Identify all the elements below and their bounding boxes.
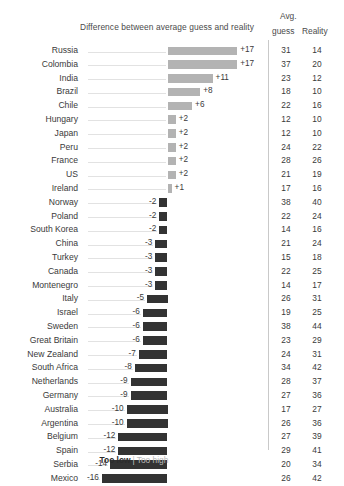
chart-row: Turkey-31518: [0, 251, 344, 265]
chart-row: Chile+62216: [0, 99, 344, 113]
chart-row: Netherlands-92837: [0, 375, 344, 389]
row-diff-label: -12: [0, 445, 115, 454]
row-diff-label: -9: [0, 390, 128, 399]
row-reality-value: 42: [306, 473, 328, 483]
row-diff-bar: [159, 212, 167, 221]
row-avg-guess-value: 29: [276, 445, 296, 455]
row-country-label: Chile: [58, 100, 78, 110]
row-diff-bar: [168, 47, 238, 56]
row-diff-bar: [127, 419, 168, 428]
row-diff-bar: [168, 74, 213, 83]
row-diff-bar: [168, 129, 176, 138]
row-avg-guess-value: 28: [276, 376, 296, 386]
row-diff-bar: [143, 309, 168, 318]
row-diff-label: +17: [240, 45, 254, 54]
row-diff-label: -3: [0, 266, 152, 275]
row-reality-value: 42: [306, 362, 328, 372]
row-diff-bar: [102, 474, 168, 483]
chart-row: Israel-61925: [0, 306, 344, 320]
row-avg-guess-value: 22: [276, 211, 296, 221]
chart-row: Russia+173114: [0, 44, 344, 58]
row-avg-guess-value: 38: [276, 321, 296, 331]
row-diff-bar: [168, 102, 193, 111]
legend-too-low: Too low: [100, 455, 131, 465]
row-diff-label: -12: [0, 431, 115, 440]
column-header-reality: Reality: [302, 26, 328, 36]
row-diff-bar: [143, 322, 168, 331]
row-avg-guess-value: 20: [276, 459, 296, 469]
row-leader-line: [88, 52, 166, 53]
row-country-label: Ireland: [52, 183, 78, 193]
row-reality-value: 10: [306, 128, 328, 138]
row-diff-label: -6: [0, 335, 140, 344]
row-avg-guess-value: 26: [276, 293, 296, 303]
row-country-label: Hungary: [46, 114, 78, 124]
row-leader-line: [88, 65, 166, 66]
chart-row: Hungary+21210: [0, 113, 344, 127]
row-avg-guess-value: 21: [276, 169, 296, 179]
row-country-label: Brazil: [57, 86, 79, 96]
row-reality-value: 16: [306, 224, 328, 234]
chart-row: South Korea-21416: [0, 223, 344, 237]
chart-row: US+22119: [0, 168, 344, 182]
chart-row: Peru+22422: [0, 141, 344, 155]
chart-row: Sweden-63844: [0, 320, 344, 334]
row-diff-bar: [155, 253, 167, 262]
row-avg-guess-value: 18: [276, 86, 296, 96]
row-leader-line: [88, 162, 166, 163]
row-reality-value: 16: [306, 100, 328, 110]
row-diff-bar: [168, 171, 176, 180]
row-leader-line: [88, 148, 166, 149]
row-reality-value: 24: [306, 238, 328, 248]
row-country-label: Peru: [60, 142, 78, 152]
row-avg-guess-value: 17: [276, 183, 296, 193]
row-diff-bar: [168, 60, 238, 69]
row-leader-line: [88, 79, 166, 80]
row-reality-value: 18: [306, 252, 328, 262]
row-diff-bar: [118, 433, 167, 442]
row-leader-line: [88, 107, 166, 108]
chart-row: South Africa-83442: [0, 361, 344, 375]
row-diff-label: -2: [0, 211, 156, 220]
row-avg-guess-value: 37: [276, 59, 296, 69]
row-diff-label: -2: [0, 197, 156, 206]
row-diff-label: +2: [179, 169, 188, 178]
row-diff-label: -3: [0, 280, 152, 289]
row-diff-label: -6: [0, 321, 140, 330]
row-avg-guess-value: 22: [276, 266, 296, 276]
row-avg-guess-value: 28: [276, 155, 296, 165]
row-diff-bar: [159, 198, 167, 207]
row-avg-guess-value: 34: [276, 362, 296, 372]
row-avg-guess-value: 14: [276, 224, 296, 234]
row-avg-guess-value: 23: [276, 335, 296, 345]
chart-row: China-32124: [0, 237, 344, 251]
row-diff-label: +2: [179, 114, 188, 123]
row-reality-value: 16: [306, 183, 328, 193]
row-reality-value: 39: [306, 431, 328, 441]
row-avg-guess-value: 22: [276, 100, 296, 110]
row-reality-value: 14: [306, 45, 328, 55]
row-diff-bar: [118, 447, 167, 456]
row-avg-guess-value: 26: [276, 418, 296, 428]
row-country-label: Japan: [55, 128, 78, 138]
row-reality-value: 24: [306, 211, 328, 221]
row-diff-bar: [168, 157, 176, 166]
row-diff-label: -9: [0, 376, 128, 385]
row-reality-value: 41: [306, 445, 328, 455]
chart-row: Belgium-122739: [0, 430, 344, 444]
row-diff-label: +2: [179, 142, 188, 151]
row-diff-bar: [168, 143, 176, 152]
row-diff-label: +8: [203, 86, 212, 95]
row-diff-bar: [155, 281, 167, 290]
chart-row: Canada-32225: [0, 265, 344, 279]
row-diff-bar: [155, 240, 167, 249]
row-leader-line: [88, 189, 166, 190]
chart-title: Difference between average guess and rea…: [62, 22, 272, 32]
row-diff-label: -8: [0, 362, 132, 371]
chart-header: Difference between average guess and rea…: [0, 0, 344, 44]
legend-too-high: Too high: [137, 455, 169, 465]
row-leader-line: [88, 176, 166, 177]
chart-row: Argentina-102636: [0, 417, 344, 431]
row-avg-guess-value: 26: [276, 473, 296, 483]
chart-row: India+112312: [0, 72, 344, 86]
